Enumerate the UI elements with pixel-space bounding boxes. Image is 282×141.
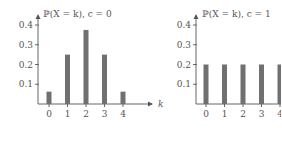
x-tick-label: 3 [102, 109, 108, 119]
y-axis-arrow-icon [194, 14, 199, 19]
bar-k-1 [222, 65, 227, 105]
y-tick-label: 0.1 [19, 79, 33, 89]
x-axis-label: k [158, 99, 163, 109]
y-tick-label: 0.2 [177, 60, 191, 70]
y-tick-label: 0.2 [19, 60, 33, 70]
bar-k-3 [102, 55, 107, 104]
bar-k-3 [259, 65, 264, 105]
x-tick-label: 2 [240, 109, 246, 119]
y-tick-label: 0.3 [19, 40, 34, 50]
y-tick-label: 0.4 [19, 20, 34, 30]
bar-k-4 [121, 92, 126, 104]
x-tick-label: 2 [83, 109, 89, 119]
bar-k-1 [65, 55, 70, 104]
bar-k-0 [204, 65, 209, 105]
y-tick-label: 0.3 [177, 40, 192, 50]
x-tick-label: 1 [65, 109, 71, 119]
chart-title: ℙ(X = k), c = 0 [43, 9, 112, 19]
x-tick-label: 3 [259, 109, 265, 119]
bar-k-2 [241, 65, 246, 105]
y-axis-arrow-icon [36, 14, 41, 19]
x-tick-label: 4 [120, 109, 126, 119]
y-tick-label: 0.1 [177, 79, 191, 89]
bar-k-2 [84, 30, 89, 104]
y-tick-label: 0.4 [177, 20, 192, 30]
bar-k-0 [47, 92, 52, 104]
chart-canvas: ℙ(X = k), c = 0k0.10.20.30.401234ℙ(X = k… [0, 0, 281, 141]
bar-k-4 [278, 65, 282, 105]
x-tick-label: 1 [222, 109, 228, 119]
chart-panel-1: ℙ(X = k), c = 0k0.10.20.30.401234 [19, 9, 164, 119]
x-tick-label: 0 [203, 109, 209, 119]
x-tick-label: 0 [46, 109, 52, 119]
chart-panel-2: ℙ(X = k), c = 10.10.20.30.401234 [177, 9, 281, 119]
x-tick-label: 4 [277, 109, 281, 119]
x-axis-arrow-icon [148, 102, 153, 107]
chart-title: ℙ(X = k), c = 1 [202, 9, 271, 19]
